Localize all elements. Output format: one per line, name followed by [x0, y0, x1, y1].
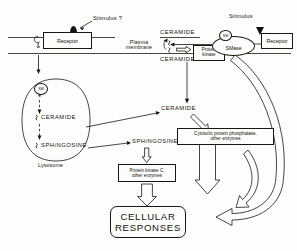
- left-receptor-label: Receptor: [57, 38, 78, 44]
- cytosolic-phosphatase-label-line2: other enzymes: [210, 137, 240, 142]
- cellular-responses-label-line2: RESPONSES: [115, 222, 181, 233]
- lysosome-ceramide-to-cytosol-ceramide-line: [86, 113, 157, 127]
- lysosome-ceramide-label: CERAMIDE: [41, 114, 76, 120]
- ceramide-to-protein-kinase-open-arrow: [177, 46, 191, 52]
- membrane-inner-ceramide-label: CERAMIDE: [160, 56, 195, 62]
- lysosome-sm-marker-icon: SM: [34, 83, 48, 95]
- right-receptor-label: Receptor: [266, 38, 287, 44]
- left-stimulus-label: Stimulus ?: [93, 15, 122, 21]
- lysosome-ceramide-lipid-glyph: [36, 115, 38, 120]
- smase-to-ceramide-arrowhead: [170, 43, 174, 47]
- cytosolic-sphingosine-label: SPHiNGOSINE: [132, 138, 178, 144]
- cellular-responses-box: CELLULAR RESPONSES: [110, 206, 186, 238]
- pkc-to-cellular-responses-open-arrow: [138, 184, 157, 206]
- plasma-membrane-label-line2: membrane: [118, 45, 160, 50]
- membrane-ceramide-to-cytosol-arrowhead: [185, 99, 189, 104]
- left-receptor-to-lysosome-arrowhead: [37, 70, 41, 75]
- sphingomyelin-pathway-diagram: Stimulus ? Receptor Plasma membrane CERA…: [0, 0, 297, 251]
- membrane-outer-ceramide-label: CERAMIDE: [160, 29, 195, 35]
- secondary-feedback-arrow: [236, 150, 258, 208]
- smase-sm-marker-icon: SM: [219, 30, 232, 41]
- smase-label: SMase: [225, 45, 241, 51]
- lysosome-caption: Lysosome: [38, 163, 63, 168]
- right-receptor-box: Receptor: [261, 33, 293, 49]
- lysosome-sphingosine-to-cytosol-arrowhead: [127, 141, 131, 145]
- protein-kinase-c-box: Protein kinase C, other enzymes: [118, 164, 176, 182]
- ceramide-inner-lipid-glyph: [168, 48, 170, 53]
- lysosome-sphingosine-to-cytosol-line: [88, 143, 128, 148]
- sphingosine-to-pkc-open-arrow: [142, 148, 151, 163]
- plasma-membrane-label: Plasma membrane: [118, 40, 160, 51]
- cytosolic-phosphatase-box: Cytosolic protein phosphatase, other enz…: [177, 128, 274, 145]
- smase-oval: SMase: [212, 36, 255, 56]
- phosphatase-to-cellular-responses-open-arrow: [195, 141, 220, 194]
- left-stimulus-pointer: [80, 21, 92, 28]
- lysosome-ceramide-to-sphingosine-arrowhead: [38, 136, 42, 140]
- protein-kinase-c-label-line2: other enzymes: [132, 173, 162, 178]
- lysosome-sphingosine-label: SPHiNGOSINE: [41, 142, 87, 148]
- lysosome-sphingosine-lipid-glyph: [36, 143, 38, 148]
- right-stimulus-label: Stimulus: [229, 13, 253, 19]
- ceramide-outer-lipid-glyph: [168, 40, 170, 45]
- cellular-responses-label-line1: CELLULAR: [120, 211, 175, 222]
- cytosolic-ceramide-label: CERAMIDE: [161, 105, 196, 111]
- lysosome-ceramide-to-cytosol-arrowhead: [156, 111, 160, 115]
- left-receptor-box: Receptor: [43, 32, 92, 49]
- protein-kinase-label-line2: kinase: [202, 53, 215, 58]
